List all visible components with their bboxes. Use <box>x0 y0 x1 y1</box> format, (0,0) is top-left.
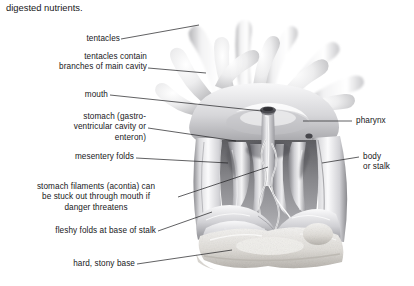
label-tentacles: tentacles <box>46 34 120 44</box>
label-fleshy-folds: fleshy folds at base of stalk <box>22 226 156 236</box>
figure-canvas: digested nutrients. tentacles tentacles … <box>0 0 414 286</box>
label-acontia-filaments: stomach filaments (acontia) can be stuck… <box>16 182 176 213</box>
label-pharynx: pharynx <box>356 116 412 126</box>
mouth-opening <box>260 106 276 113</box>
label-stomach-enteron: stomach (gastro- ventricular cavity or e… <box>52 112 146 143</box>
label-body-or-stalk: body or stalk <box>363 152 411 173</box>
label-mouth: mouth <box>56 90 108 100</box>
label-tentacles-contain-branches: tentacles contain branches of main cavit… <box>20 52 147 73</box>
label-hard-stony-base: hard, stony base <box>62 259 135 269</box>
label-mesentery-folds: mesentery folds <box>52 152 134 162</box>
caption-fragment: digested nutrients. <box>6 2 83 14</box>
pharynx-marker <box>305 133 312 138</box>
